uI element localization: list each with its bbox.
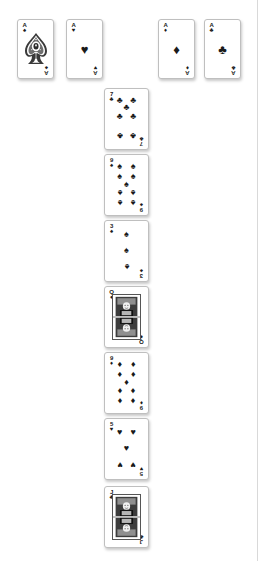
card-pip-field: ♣♣♣♣♣♣♣ bbox=[113, 96, 140, 142]
card-pip: ♣ bbox=[128, 112, 138, 121]
card-pip: ♦ bbox=[115, 360, 125, 369]
five-of-hearts[interactable]: 5♥5♥♥♥♥♥♥ bbox=[104, 418, 149, 480]
card-pip: ♥ bbox=[115, 428, 125, 437]
card-pip: ♦ bbox=[128, 360, 138, 369]
card-pip: ♥ bbox=[115, 460, 125, 469]
nine-of-spades[interactable]: 9♠9♠♠♠♠♠♠♠♠♠♠ bbox=[104, 154, 149, 216]
court-card-frame bbox=[112, 294, 141, 340]
page-border-divider bbox=[257, 0, 258, 561]
three-of-spades[interactable]: 3♠3♠♠♠♠ bbox=[104, 220, 149, 282]
card-pip: ♠ bbox=[115, 162, 125, 171]
card-pip: ♠ bbox=[128, 198, 138, 207]
ace-of-diamonds[interactable]: A♦A♦♦ bbox=[158, 19, 195, 79]
card-corner-index-tl: A♦ bbox=[161, 22, 170, 33]
card-pip: ♥ bbox=[128, 460, 138, 469]
card-pip: ♦ bbox=[115, 386, 125, 395]
card-pip-field: ♠♠♠ bbox=[113, 228, 140, 274]
card-corner-index-br: A♦ bbox=[183, 65, 192, 76]
card-pip: ♦ bbox=[128, 396, 138, 405]
card-pip: ♠ bbox=[115, 188, 125, 197]
card-pip-field: ♥♥♥♥♥ bbox=[113, 426, 140, 472]
card-pip: ♥ bbox=[122, 444, 132, 453]
seven-of-clubs[interactable]: 7♣7♣♣♣♣♣♣♣♣ bbox=[104, 88, 149, 150]
card-pip: ♠ bbox=[128, 188, 138, 197]
card-corner-index-br: A♠ bbox=[42, 65, 51, 76]
queen-of-diamonds[interactable]: Q♦Q♦ bbox=[104, 286, 149, 348]
card-pip: ♠ bbox=[128, 162, 138, 171]
ace-of-clubs[interactable]: A♣A♣♣ bbox=[204, 19, 241, 79]
card-corner-index-br: A♣ bbox=[229, 65, 238, 76]
ace-of-hearts[interactable]: A♥A♥♥ bbox=[66, 19, 103, 79]
card-pip: ♠ bbox=[122, 230, 132, 239]
card-suit-icon: ♦ bbox=[161, 27, 170, 33]
card-pip: ♠ bbox=[122, 262, 132, 271]
card-pip: ♦ bbox=[115, 396, 125, 405]
card-pip: ♣ bbox=[115, 131, 125, 140]
court-card-portrait bbox=[113, 295, 140, 339]
card-pip: ♦ bbox=[128, 386, 138, 395]
card-pip: ♣ bbox=[128, 131, 138, 140]
court-card-portrait bbox=[113, 495, 140, 539]
nine-of-diamonds[interactable]: 9♦9♦♦♦♦♦♦♦♦♦♦ bbox=[104, 352, 149, 414]
ace-of-spades[interactable]: A♠A♠ bbox=[17, 19, 54, 79]
jack-of-clubs[interactable]: J♣J♣ bbox=[104, 486, 149, 548]
card-pip: ♠ bbox=[115, 198, 125, 207]
ace-center-pip: ♣ bbox=[218, 43, 227, 56]
card-suit-icon: ♣ bbox=[207, 27, 216, 33]
card-pip-field: ♠♠♠♠♠♠♠♠♠ bbox=[113, 162, 140, 208]
ace-center-pip: ♦ bbox=[173, 43, 180, 56]
card-corner-index-tl: A♥ bbox=[69, 22, 78, 33]
card-pip: ♥ bbox=[128, 428, 138, 437]
ace-center-pip: ♥ bbox=[81, 43, 89, 56]
card-suit-icon: ♥ bbox=[69, 27, 78, 33]
card-corner-index-br: A♥ bbox=[91, 65, 100, 76]
card-corner-index-tl: A♣ bbox=[207, 22, 216, 33]
card-pip: ♠ bbox=[122, 246, 132, 255]
court-card-frame bbox=[112, 494, 141, 540]
card-pip-field: ♦♦♦♦♦♦♦♦♦ bbox=[113, 360, 140, 406]
ornate-spade-icon bbox=[23, 32, 49, 66]
card-pip: ♣ bbox=[115, 112, 125, 121]
